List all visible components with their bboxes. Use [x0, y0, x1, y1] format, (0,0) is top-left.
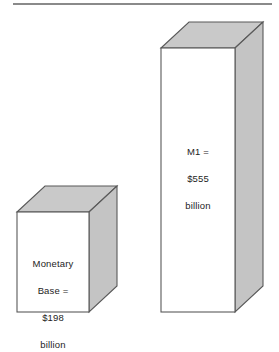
- block-m1: [161, 22, 263, 312]
- m1-side-face: [235, 22, 263, 312]
- monetary-base-label-line-4: billion: [17, 338, 89, 352]
- monetary-base-front-face: [17, 212, 89, 312]
- block-monetary-base: [17, 186, 117, 312]
- m1-front-face: [161, 48, 235, 312]
